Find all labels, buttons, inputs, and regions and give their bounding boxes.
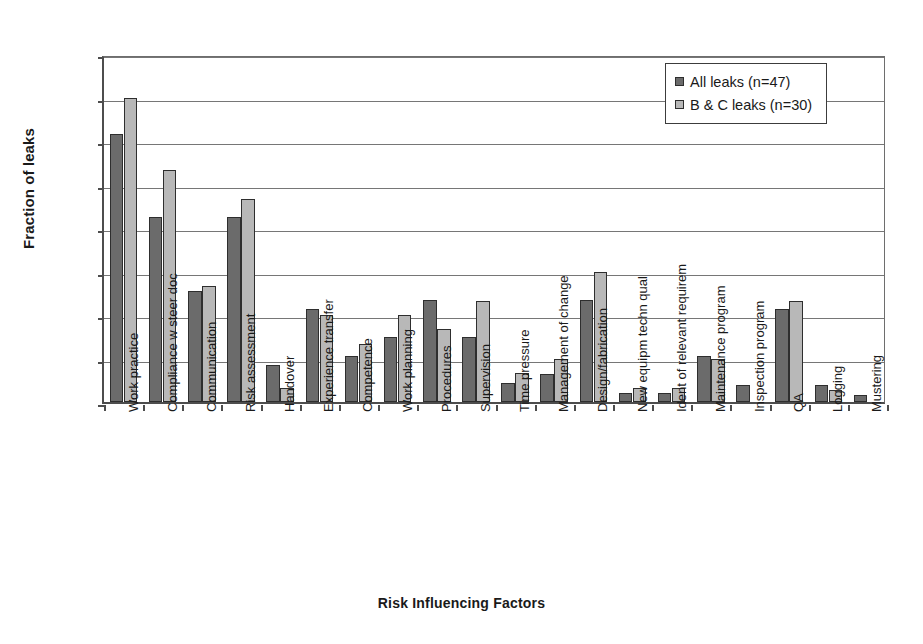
- x-tick-mark: [378, 405, 380, 411]
- x-tick-label: Handover: [283, 356, 296, 412]
- bar-group: [848, 57, 887, 402]
- bar: [188, 291, 202, 402]
- bar: [540, 374, 554, 402]
- x-tick-label: Work practice: [127, 333, 140, 412]
- x-tick-mark: [300, 405, 302, 411]
- x-tick-mark: [143, 405, 145, 411]
- x-tick-mark: [182, 405, 184, 411]
- y-axis-title: Fraction of leaks: [20, 99, 37, 279]
- x-tick-mark: [809, 405, 811, 411]
- legend: All leaks (n=47) B & C leaks (n=30): [665, 63, 827, 124]
- bar: [227, 217, 241, 402]
- x-tick-label: Logging: [831, 366, 844, 412]
- x-axis-title: Risk Influencing Factors: [0, 595, 923, 611]
- bar: [110, 134, 124, 402]
- x-tick-mark: [887, 405, 889, 411]
- x-tick-label: Ident of relevant requirem: [675, 264, 688, 412]
- bar: [619, 393, 633, 402]
- x-tick-label: Risk assessment: [244, 314, 257, 412]
- bar-chart: Fraction of leaks 0.80.70.60.50.40.30.20…: [0, 0, 923, 644]
- bar: [345, 356, 359, 402]
- bar: [580, 300, 594, 402]
- bar: [736, 385, 750, 402]
- bar: [266, 365, 280, 402]
- bar-group: [261, 57, 300, 402]
- bar: [423, 300, 437, 402]
- x-tick-label: Maintenance program: [714, 286, 727, 412]
- x-tick-mark: [339, 405, 341, 411]
- x-tick-label: Supervision: [479, 344, 492, 412]
- bar: [658, 393, 672, 402]
- bar: [697, 356, 711, 402]
- bar: [854, 395, 868, 402]
- x-tick-mark: [104, 405, 106, 411]
- x-tick-mark: [417, 405, 419, 411]
- legend-swatch-icon: [675, 100, 684, 109]
- x-tick-label: Compliance w steer doc: [166, 273, 179, 412]
- bar: [149, 217, 163, 402]
- x-tick-label: Competence: [361, 338, 374, 412]
- bar: [462, 337, 476, 402]
- x-tick-label: QA: [792, 393, 805, 412]
- x-tick-label: Mustering: [870, 355, 883, 412]
- legend-item: All leaks (n=47): [675, 70, 812, 93]
- x-tick-mark: [770, 405, 772, 411]
- x-tick-label: Communication: [205, 322, 218, 412]
- bar: [815, 385, 829, 402]
- legend-swatch-icon: [675, 77, 684, 86]
- x-tick-mark: [496, 405, 498, 411]
- x-tick-label: Time pressure: [518, 329, 531, 412]
- x-tick-mark: [848, 405, 850, 411]
- x-tick-mark: [261, 405, 263, 411]
- x-tick-mark: [652, 405, 654, 411]
- x-tick-mark: [691, 405, 693, 411]
- x-tick-label: Management of change: [557, 275, 570, 412]
- legend-item: B & C leaks (n=30): [675, 93, 812, 116]
- x-tick-label: Design/fabrication: [596, 308, 609, 412]
- x-tick-mark: [221, 405, 223, 411]
- x-tick-label: Work planning: [401, 329, 414, 412]
- x-tick-mark: [574, 405, 576, 411]
- x-tick-label: Experience transfer: [322, 299, 335, 412]
- x-tick-label: Inspection program: [753, 301, 766, 412]
- x-tick-label: Procedures: [440, 346, 453, 412]
- x-tick-label: New equipm techn qual: [636, 276, 649, 412]
- x-tick-mark: [535, 405, 537, 411]
- bar: [789, 301, 803, 402]
- bar: [384, 337, 398, 402]
- bar: [775, 309, 789, 402]
- bar: [306, 309, 320, 402]
- x-tick-mark: [456, 405, 458, 411]
- x-tick-mark: [613, 405, 615, 411]
- legend-label: B & C leaks (n=30): [690, 97, 812, 113]
- bar: [501, 383, 515, 402]
- x-tick-mark: [730, 405, 732, 411]
- legend-label: All leaks (n=47): [690, 74, 790, 90]
